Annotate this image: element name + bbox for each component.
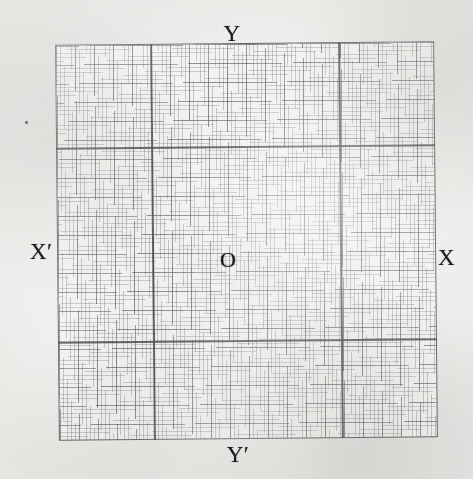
origin-label: O	[220, 249, 236, 271]
scanned-page: Y Y′ X′ X O	[0, 0, 473, 479]
graph-paper-sheet	[55, 41, 438, 441]
ink-speck	[25, 121, 28, 124]
millimetre-grid	[55, 41, 438, 441]
axis-label-x-positive: X	[438, 246, 455, 269]
axis-label-y-negative: Y′	[227, 443, 250, 466]
axis-label-y-positive: Y	[223, 22, 240, 45]
axis-label-x-negative: X′	[30, 240, 53, 263]
